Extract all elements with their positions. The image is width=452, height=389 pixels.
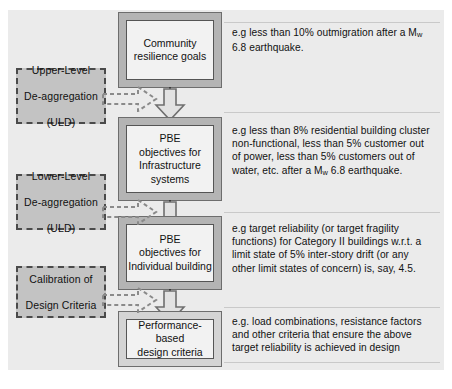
stage-label-line: PBE	[159, 132, 180, 144]
deaggregation-label-line: De-aggregation	[24, 196, 98, 209]
note-performance-based-design-criteria: e.g. load combinations, resistance facto…	[232, 315, 422, 355]
stage-label-line: objectives for	[139, 246, 201, 258]
note-rule	[224, 112, 440, 113]
deaggregation-lower-level[interactable]: Lower-Level De-aggregation (ULD)	[16, 174, 106, 230]
note-line: other limit states of concern) is, say, …	[232, 262, 421, 275]
note-line: non-functional, less than 5% customer ou…	[232, 137, 430, 150]
stage-label-line: Individual building	[128, 260, 211, 272]
note-rule	[224, 362, 440, 363]
stage-label: PBE objectives for Infrastructure system…	[126, 125, 214, 193]
stage-label: PBE objectives for Individual building	[126, 224, 214, 282]
deaggregation-label-line: Lower-Level	[24, 170, 98, 183]
note-line: of power, less than 5% customers out of	[232, 150, 430, 163]
stage-label-line: PBE	[159, 233, 180, 245]
note-community-resilience-goals: e.g less than 10% outmigration after a M…	[232, 26, 422, 54]
stage-community-resilience-goals[interactable]: Community resilience goals	[118, 12, 222, 88]
note-line: e.g target reliability (or target fragil…	[232, 222, 421, 235]
stage-label-line: systems	[151, 173, 190, 185]
deaggregation-calibration-design-criteria[interactable]: Calibration of Design Criteria	[16, 266, 106, 318]
stage-performance-based-design-criteria[interactable]: Performance-based design criteria	[118, 311, 222, 367]
stage-label-line: Infrastructure	[139, 159, 201, 171]
stage-pbe-objectives-infrastructure-systems[interactable]: PBE objectives for Infrastructure system…	[118, 117, 222, 201]
note-line: e.g less than 8% residential building cl…	[232, 124, 430, 137]
note-rule	[224, 212, 440, 213]
stage-label: Community resilience goals	[126, 20, 214, 80]
note-rule	[224, 22, 440, 23]
note-line: e.g. load combinations, resistance facto…	[232, 315, 422, 328]
stage-label-line: Community	[143, 37, 196, 49]
deaggregation-label-line: (ULD)	[24, 116, 98, 129]
note-pbe-infrastructure: e.g less than 8% residential building cl…	[232, 124, 430, 179]
note-line: e.g less than 10% outmigration after a M	[232, 27, 417, 38]
deaggregation-label-line: Design Criteria	[26, 299, 97, 312]
note-rule	[224, 307, 440, 308]
diagram-canvas: Community resilience goals e.g less than…	[0, 0, 452, 389]
deaggregation-upper-level[interactable]: Upper-Level De-aggregation (ULD)	[16, 68, 106, 124]
deaggregation-label-line: Calibration of	[26, 273, 97, 286]
dashed-arrow-right-icon	[102, 287, 158, 313]
note-line: 6.8 earthquake.	[328, 165, 402, 176]
note-line: target reliability is achieved in design	[232, 341, 422, 354]
deaggregation-label-line: (ULD)	[24, 222, 98, 235]
subscript: w	[417, 30, 422, 39]
note-line: and other criteria that ensure the above	[232, 328, 422, 341]
stage-label: Performance-based design criteria	[126, 319, 214, 359]
note-line: limit state of 5% inter-story drift (or …	[232, 248, 421, 261]
dashed-arrow-right-icon	[102, 199, 158, 225]
dashed-arrow-right-icon	[102, 86, 158, 112]
stage-label-line: resilience goals	[134, 50, 206, 62]
stage-label-line: Performance-based	[138, 319, 202, 345]
stage-label-line: objectives for	[139, 146, 201, 158]
note-line: 6.8 earthquake.	[232, 41, 422, 54]
stage-label-line: design criteria	[137, 346, 202, 358]
deaggregation-label-line: Upper-Level	[24, 64, 98, 77]
deaggregation-label-line: De-aggregation	[24, 90, 98, 103]
note-line: functions) for Category II buildings w.r…	[232, 235, 421, 248]
stage-pbe-objectives-individual-building[interactable]: PBE objectives for Individual building	[118, 216, 222, 290]
note-pbe-individual-building: e.g target reliability (or target fragil…	[232, 222, 421, 275]
note-line: water, etc. after a M	[232, 165, 323, 176]
